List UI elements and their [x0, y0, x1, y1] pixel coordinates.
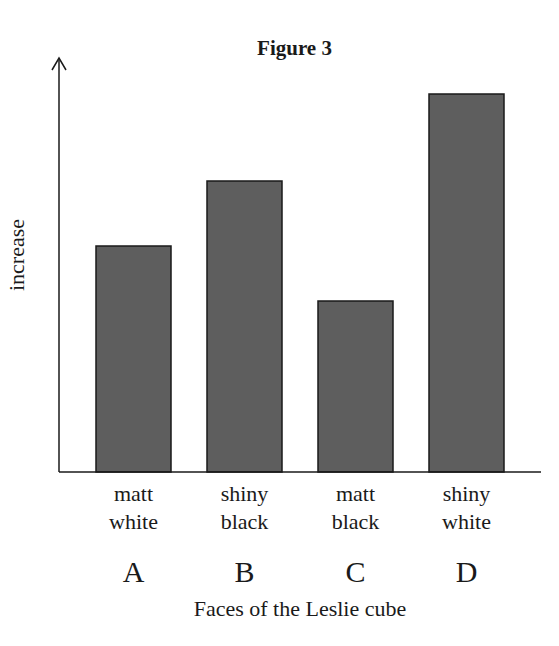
bars-group: [96, 94, 504, 472]
category-description-line2: black: [301, 508, 411, 536]
category-description-a: mattwhite: [79, 480, 189, 536]
category-description-line1: matt: [79, 480, 189, 508]
category-letter-c: C: [301, 555, 411, 589]
category-letter-a: A: [79, 555, 189, 589]
category-description-line1: shiny: [412, 480, 522, 508]
category-description-c: mattblack: [301, 480, 411, 536]
x-axis-label: Faces of the Leslie cube: [60, 596, 540, 622]
bar-c: [318, 301, 393, 472]
bar-a: [96, 246, 171, 472]
category-description-line1: shiny: [190, 480, 300, 508]
plot-area: [0, 0, 559, 646]
category-description-line2: white: [79, 508, 189, 536]
category-description-b: shinyblack: [190, 480, 300, 536]
category-letter-d: D: [412, 555, 522, 589]
category-description-d: shinywhite: [412, 480, 522, 536]
category-description-line2: black: [190, 508, 300, 536]
category-description-line2: white: [412, 508, 522, 536]
bar-d: [429, 94, 504, 472]
category-letter-b: B: [190, 555, 300, 589]
category-description-line1: matt: [301, 480, 411, 508]
bar-b: [207, 181, 282, 472]
